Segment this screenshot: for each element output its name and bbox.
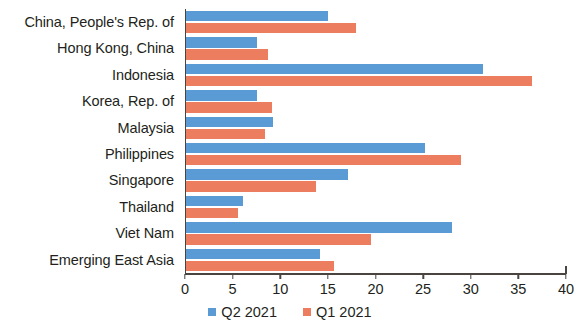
category-label: China, People's Rep. of xyxy=(0,9,181,35)
legend-label: Q2 2021 xyxy=(221,305,277,320)
x-axis-tick-label: 15 xyxy=(320,280,336,298)
legend-item: Q2 2021 xyxy=(208,305,277,320)
category-label: Singapore xyxy=(0,167,181,193)
x-axis-tick-label: 35 xyxy=(510,280,526,298)
x-axis-tick xyxy=(470,274,471,279)
legend-swatch-icon xyxy=(208,308,216,316)
x-axis-tick xyxy=(327,274,328,279)
bar-group xyxy=(186,88,567,114)
bar-group xyxy=(186,167,567,193)
bar-q1-2021 xyxy=(186,155,461,166)
bar-q2-2021 xyxy=(186,169,348,180)
chart-legend: Q2 2021Q1 2021 xyxy=(0,305,580,320)
bar-q1-2021 xyxy=(186,23,356,34)
x-axis-tick-label: 5 xyxy=(229,280,237,298)
bar-q2-2021 xyxy=(186,143,425,154)
x-axis-tick-labels: 0510152025303540 xyxy=(185,280,566,300)
category-axis: China, People's Rep. ofHong Kong, ChinaI… xyxy=(0,9,181,273)
bars-layer xyxy=(186,9,567,273)
category-label: Indonesia xyxy=(0,62,181,88)
category-label: Viet Nam xyxy=(0,220,181,246)
x-axis-tick xyxy=(375,274,376,279)
category-label: Malaysia xyxy=(0,115,181,141)
bar-group xyxy=(186,115,567,141)
x-axis-tick xyxy=(280,274,281,279)
category-label: Emerging East Asia xyxy=(0,247,181,273)
bar-group xyxy=(186,35,567,61)
bar-q2-2021 xyxy=(186,196,243,207)
legend-swatch-icon xyxy=(303,308,311,316)
x-axis-tick-label: 30 xyxy=(463,280,479,298)
bar-q1-2021 xyxy=(186,49,268,60)
bar-q2-2021 xyxy=(186,90,257,101)
category-label: Philippines xyxy=(0,141,181,167)
bar-q2-2021 xyxy=(186,249,320,260)
bar-group xyxy=(186,247,567,273)
bar-q1-2021 xyxy=(186,129,265,140)
x-axis-tick-label: 10 xyxy=(272,280,288,298)
bar-q1-2021 xyxy=(186,234,371,245)
legend-label: Q1 2021 xyxy=(316,305,372,320)
category-label: Hong Kong, China xyxy=(0,35,181,61)
bar-q2-2021 xyxy=(186,37,257,48)
bar-group xyxy=(186,141,567,167)
bar-group xyxy=(186,62,567,88)
bar-q2-2021 xyxy=(186,117,273,128)
bar-group xyxy=(186,9,567,35)
category-label: Thailand xyxy=(0,194,181,220)
x-axis-tick xyxy=(565,274,566,279)
x-axis-tick-label: 20 xyxy=(367,280,383,298)
x-axis-end-cap xyxy=(565,266,567,274)
bar-q1-2021 xyxy=(186,181,316,192)
x-axis-tick-label: 0 xyxy=(181,280,189,298)
x-axis-tick-label: 40 xyxy=(558,280,574,298)
bar-q1-2021 xyxy=(186,102,272,113)
x-axis-tick xyxy=(518,274,519,279)
category-label: Korea, Rep. of xyxy=(0,88,181,114)
x-axis-tick xyxy=(184,274,185,279)
bar-chart: China, People's Rep. ofHong Kong, ChinaI… xyxy=(0,0,580,325)
bar-group xyxy=(186,220,567,246)
bar-q1-2021 xyxy=(186,76,532,87)
bar-q2-2021 xyxy=(186,64,483,75)
legend-item: Q1 2021 xyxy=(303,305,372,320)
bar-q2-2021 xyxy=(186,11,328,22)
x-axis-tick-label: 25 xyxy=(415,280,431,298)
bar-q1-2021 xyxy=(186,261,334,272)
x-axis-tick xyxy=(422,274,423,279)
bar-q1-2021 xyxy=(186,208,238,219)
plot-area xyxy=(185,9,567,273)
x-axis-tick xyxy=(232,274,233,279)
bar-q2-2021 xyxy=(186,222,452,233)
bar-group xyxy=(186,194,567,220)
